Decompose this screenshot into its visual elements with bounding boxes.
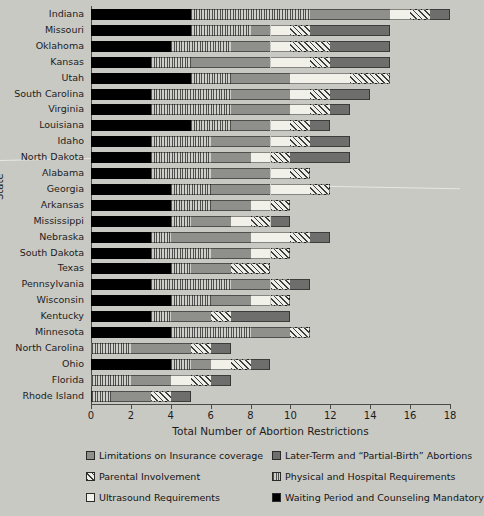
bar-segment-later	[171, 391, 191, 402]
bar-segment-parental	[310, 184, 330, 195]
bar-segment-ultrasound	[171, 375, 191, 386]
bar-segment-parental	[290, 232, 310, 243]
bar-segment-parental	[271, 295, 291, 306]
bar-segment-parental	[151, 391, 171, 402]
x-tick	[211, 404, 212, 409]
x-tick	[330, 404, 331, 409]
bar-segment-insurance	[231, 104, 291, 115]
bar-segment-parental	[271, 200, 291, 211]
bar-segment-ultrasound	[231, 216, 251, 227]
bar-segment-physical	[151, 57, 191, 68]
chart-legend: Limitations on Insurance coverageLater-T…	[86, 450, 456, 510]
bar-segment-physical	[151, 136, 211, 147]
bar-segment-insurance	[111, 391, 151, 402]
legend-item-physical[interactable]: Physical and Hospital Requirements	[272, 471, 455, 482]
y-axis-label-alabama: Alabama	[42, 168, 84, 178]
bar-segment-physical	[151, 248, 211, 259]
y-axis-label-south-carolina: South Carolina	[14, 89, 84, 99]
bar-segment-insurance	[211, 184, 271, 195]
legend-item-insurance[interactable]: Limitations on Insurance coverage	[86, 450, 263, 461]
bar-segment-physical	[151, 168, 211, 179]
bar-segment-wait	[91, 200, 171, 211]
y-axis-label-texas: Texas	[58, 263, 84, 273]
x-tick	[450, 404, 451, 409]
bar-segment-later	[310, 232, 330, 243]
legend-swatch-parental-icon	[86, 472, 95, 481]
bar-segment-ultrasound	[271, 120, 291, 131]
bar-segment-later	[290, 279, 310, 290]
bar-segment-insurance	[171, 232, 251, 243]
y-axis-label-south-dakota: South Dakota	[20, 248, 84, 258]
legend-swatch-physical-icon	[272, 472, 281, 481]
bar-segment-later	[430, 9, 450, 20]
bar-segment-parental	[271, 248, 291, 259]
bar-segment-physical	[191, 9, 311, 20]
bar-segment-wait	[91, 104, 151, 115]
bar-segment-insurance	[231, 73, 291, 84]
bar-segment-physical	[151, 311, 171, 322]
legend-item-wait[interactable]: Waiting Period and Counseling Mandatory	[272, 492, 484, 503]
bar-segment-wait	[91, 263, 171, 274]
bar-segment-insurance	[211, 168, 271, 179]
y-axis-label-florida: Florida	[52, 375, 84, 385]
bar-segment-wait	[91, 41, 171, 52]
bar-segment-wait	[91, 359, 171, 370]
bar-segment-parental	[231, 263, 271, 274]
bar-segment-wait	[91, 216, 171, 227]
bar-segment-wait	[91, 327, 171, 338]
bar-segment-parental	[191, 343, 211, 354]
bar-segment-ultrasound	[290, 89, 310, 100]
bar-segment-insurance	[231, 89, 291, 100]
bar-segment-parental	[290, 41, 330, 52]
x-tick-label-16: 16	[404, 410, 417, 421]
legend-item-parental[interactable]: Parental Involvement	[86, 471, 200, 482]
bar-segment-insurance	[211, 152, 251, 163]
bar-segment-parental	[310, 57, 330, 68]
bar-segment-ultrasound	[271, 184, 311, 195]
legend-item-later[interactable]: Later-Term and “Partial-Birth” Abortions	[272, 450, 472, 461]
x-axis-line	[91, 404, 451, 405]
bar-segment-physical	[171, 295, 211, 306]
y-axis-label-kansas: Kansas	[50, 57, 84, 67]
bar-segment-wait	[91, 25, 191, 36]
bar-segment-physical	[151, 104, 231, 115]
bar-segment-insurance	[231, 279, 271, 290]
bar-segment-wait	[91, 248, 151, 259]
x-axis-title: Total Number of Abortion Restrictions	[91, 425, 450, 437]
bar-segment-physical	[91, 375, 131, 386]
y-axis-label-pennsylvania: Pennsylvania	[22, 279, 84, 289]
bar-segment-insurance	[251, 25, 271, 36]
bar-segment-physical	[171, 41, 231, 52]
legend-swatch-later-icon	[272, 451, 281, 460]
y-axis-label-oklahoma: Oklahoma	[36, 41, 84, 51]
bar-segment-parental	[231, 359, 251, 370]
bar-segment-insurance	[251, 327, 291, 338]
bar-segment-physical	[171, 216, 191, 227]
x-tick	[171, 404, 172, 409]
bar-segment-wait	[91, 57, 151, 68]
bar-segment-physical	[151, 279, 231, 290]
legend-item-ultrasound[interactable]: Ultrasound Requirements	[86, 492, 220, 503]
x-tick-label-4: 4	[168, 410, 174, 421]
bar-segment-wait	[91, 120, 191, 131]
x-tick	[290, 404, 291, 409]
bar-segment-ultrasound	[251, 200, 271, 211]
bar-segment-wait	[91, 9, 191, 20]
bar-segment-parental	[350, 73, 390, 84]
x-tick	[370, 404, 371, 409]
x-tick-label-18: 18	[444, 410, 457, 421]
legend-swatch-wait-icon	[272, 493, 281, 502]
bar-segment-later	[330, 89, 370, 100]
x-tick-label-8: 8	[247, 410, 253, 421]
bar-segment-physical	[91, 391, 111, 402]
bar-segment-later	[330, 104, 350, 115]
bar-segment-physical	[91, 343, 131, 354]
legend-swatch-ultrasound-icon	[86, 493, 95, 502]
bar-segment-parental	[310, 89, 330, 100]
bar-segment-parental	[211, 311, 231, 322]
bar-segment-insurance	[191, 359, 211, 370]
bar-segment-ultrasound	[290, 104, 310, 115]
bar-segment-parental	[410, 9, 430, 20]
x-tick-label-6: 6	[207, 410, 213, 421]
